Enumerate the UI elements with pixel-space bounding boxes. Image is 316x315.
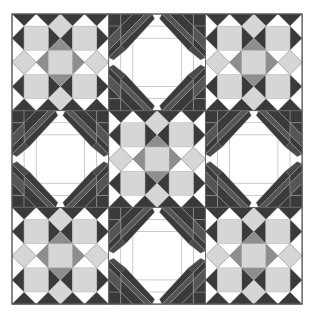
corner-square xyxy=(193,14,205,26)
center-square xyxy=(145,147,169,171)
corner-square xyxy=(290,111,302,123)
quilt-block-star xyxy=(12,14,109,111)
corner-square xyxy=(109,99,121,111)
quilt-block-star xyxy=(205,14,302,111)
corner-square xyxy=(290,195,302,207)
light-square xyxy=(72,219,96,243)
light-square xyxy=(24,268,48,292)
quilt-block-paw xyxy=(109,207,206,304)
light-square xyxy=(217,268,241,292)
corner-square xyxy=(109,14,121,26)
corner-square xyxy=(12,111,24,123)
corner-square xyxy=(109,292,121,304)
light-square xyxy=(266,268,290,292)
corner-square xyxy=(205,111,217,123)
center-square xyxy=(242,244,266,268)
center-square xyxy=(48,244,72,268)
quilt-block-paw xyxy=(205,111,302,208)
light-square xyxy=(217,74,241,98)
quilt-block-star xyxy=(205,207,302,304)
light-square xyxy=(121,123,145,147)
light-square xyxy=(24,74,48,98)
light-square xyxy=(266,219,290,243)
quilt-canvas xyxy=(0,0,316,315)
quilt-block-paw xyxy=(109,14,206,111)
light-square xyxy=(121,171,145,195)
quilt-block-star xyxy=(12,207,109,304)
corner-square xyxy=(193,207,205,219)
light-square xyxy=(72,26,96,50)
quilt-block-star xyxy=(109,111,206,208)
corner-square xyxy=(205,195,217,207)
light-square xyxy=(266,26,290,50)
quilt-block-paw xyxy=(12,111,109,208)
center-square xyxy=(242,50,266,74)
light-square xyxy=(24,26,48,50)
light-square xyxy=(169,123,193,147)
light-square xyxy=(217,219,241,243)
center-square xyxy=(48,50,72,74)
light-square xyxy=(72,74,96,98)
corner-square xyxy=(97,195,109,207)
corner-square xyxy=(193,292,205,304)
light-square xyxy=(266,74,290,98)
light-square xyxy=(24,219,48,243)
light-square xyxy=(169,171,193,195)
light-square xyxy=(217,26,241,50)
corner-square xyxy=(97,111,109,123)
corner-square xyxy=(193,99,205,111)
corner-square xyxy=(109,207,121,219)
light-square xyxy=(72,268,96,292)
corner-square xyxy=(12,195,24,207)
